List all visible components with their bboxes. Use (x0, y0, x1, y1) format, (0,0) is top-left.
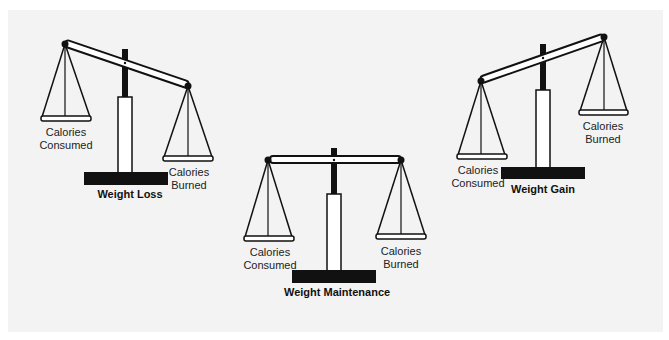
label-line: Calories (164, 166, 214, 179)
weight-maintenance-left-label: Calories Consumed (240, 246, 300, 272)
label-line: Burned (164, 179, 214, 192)
weight-loss-scale (41, 40, 213, 185)
right-pan (376, 157, 426, 240)
right-pan (163, 83, 213, 162)
scale-beam (270, 156, 401, 163)
label-line: Burned (376, 258, 426, 271)
scale-column (118, 97, 132, 173)
label-line: Burned (578, 133, 628, 146)
weight-maintenance-title: Weight Maintenance (284, 286, 384, 298)
label-line: Calories (578, 120, 628, 133)
weight-gain-right-label: Calories Burned (578, 120, 628, 146)
label-line: Calories (240, 246, 300, 259)
weight-gain-title: Weight Gain (508, 183, 578, 195)
weight-loss-left-label: Calories Consumed (36, 126, 96, 152)
left-pan (244, 157, 294, 242)
label-line: Calories (36, 126, 96, 139)
scale-base (292, 270, 376, 283)
label-line: Consumed (448, 177, 508, 190)
scale-post (122, 49, 128, 99)
label-line: Calories (448, 164, 508, 177)
label-line: Consumed (36, 139, 96, 152)
weight-loss-right-label: Calories Burned (164, 166, 214, 192)
left-pan (457, 78, 507, 160)
weight-maintenance-right-label: Calories Burned (376, 245, 426, 271)
scale-base (501, 167, 585, 179)
label-line: Consumed (240, 259, 300, 272)
scale-base (84, 172, 168, 185)
weight-loss-title: Weight Loss (94, 188, 166, 200)
scale-column (536, 90, 550, 168)
weight-gain-left-label: Calories Consumed (448, 164, 508, 190)
weight-gain-scale (457, 34, 628, 180)
scale-post (540, 44, 546, 92)
label-line: Calories (376, 245, 426, 258)
scale-column (327, 194, 341, 271)
